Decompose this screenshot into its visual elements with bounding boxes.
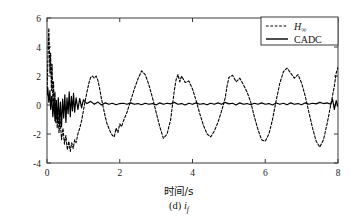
y-tick-label: 0 <box>36 101 41 111</box>
figure-caption: (d) if <box>0 200 358 214</box>
x-tick-label: 8 <box>336 168 341 178</box>
x-tick-label: 4 <box>190 168 195 178</box>
caption-index: (d) <box>169 200 184 211</box>
figure-container: 02468-4-20246 H∞CADC 状态if/(p.u.) 时间/s (d… <box>0 0 358 224</box>
y-tick-label: 6 <box>36 14 41 24</box>
legend-label-cadc: CADC <box>294 34 322 45</box>
x-axis-label: 时间/s <box>0 183 358 198</box>
y-tick-label: -2 <box>33 130 41 140</box>
x-tick-label: 6 <box>263 168 268 178</box>
caption-sub: f <box>187 205 189 214</box>
x-tick-label: 0 <box>45 168 50 178</box>
chart-legend: H∞CADC <box>261 17 338 45</box>
y-tick-label: 2 <box>36 72 41 82</box>
x-tick-label: 2 <box>117 168 122 178</box>
y-tick-label: -4 <box>33 159 41 169</box>
y-tick-label: 4 <box>36 43 41 53</box>
